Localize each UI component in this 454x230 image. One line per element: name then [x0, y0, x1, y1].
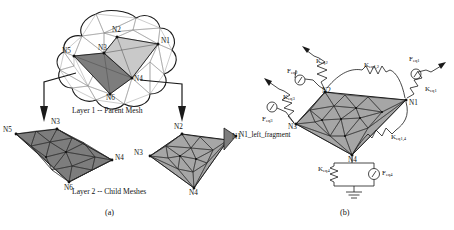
left-child-mesh	[15, 128, 114, 184]
top-coupling-wire	[327, 70, 362, 88]
ground-symbol	[346, 192, 362, 198]
figure-svg	[0, 0, 454, 230]
label-right-child-N3: N3	[134, 150, 143, 157]
label-parent-N3: N3	[98, 45, 107, 52]
label-left-child-N5: N5	[3, 127, 12, 134]
panel-a-caption: (a)	[105, 208, 114, 217]
label-parent-N4: N4	[134, 76, 143, 83]
spring-keq1	[407, 70, 431, 98]
label-b-N2: N2	[322, 88, 331, 95]
label-keq1: Keq1	[425, 86, 437, 93]
panel-b-caption: (b)	[340, 208, 350, 217]
label-left-child-N6: N6	[64, 185, 73, 192]
right-child-mesh	[149, 133, 230, 190]
layer1-caption: Layer 1 -- Parent Mesh	[72, 107, 142, 115]
label-keq3: Keq3	[283, 94, 295, 101]
label-left-child-N3: N3	[51, 119, 60, 126]
panel-b-mesh	[295, 91, 408, 157]
label-feq3: Feq3	[262, 116, 273, 123]
label-left-child-N4: N4	[115, 155, 124, 162]
label-parent-N5: N5	[62, 48, 71, 55]
label-feq1: Feq1	[409, 56, 420, 63]
label-keq4: Keq4	[318, 166, 330, 173]
label-keq1-4: Keq1,4	[391, 134, 406, 141]
spring-keq4	[330, 163, 338, 186]
label-keq1-2: Keq1,2	[364, 62, 379, 69]
label-feq4: Feq4	[382, 170, 393, 177]
cropped-footer-text	[8, 224, 448, 230]
label-b-N1: N1	[409, 100, 418, 107]
label-keq2: Keq2	[316, 58, 328, 65]
label-parent-N1: N1	[161, 38, 170, 45]
label-feq2: Feq2	[287, 68, 298, 75]
label-right-child-N4: N4	[189, 190, 198, 197]
label-right-child-N2: N2	[174, 124, 183, 131]
label-b-N4: N4	[348, 157, 357, 164]
layer2-caption: Layer 2 -- Child Meshes	[72, 188, 146, 196]
figure-container: N1 N2 N3 N4 N5 N6 Layer 1 -- Parent Mesh…	[0, 0, 454, 230]
label-b-fragment-N1: N1_left_fragment	[239, 132, 291, 139]
label-parent-N2: N2	[112, 27, 121, 34]
label-parent-N6: N6	[106, 95, 115, 102]
